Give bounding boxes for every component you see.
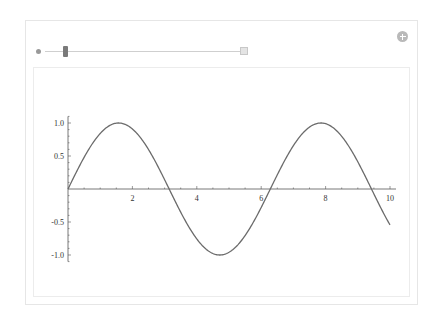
svg-text:6: 6 (259, 194, 263, 203)
svg-text:8: 8 (324, 194, 328, 203)
axes (68, 116, 396, 261)
svg-text:0.5: 0.5 (54, 152, 64, 161)
svg-text:4: 4 (195, 194, 199, 203)
ticks (68, 116, 390, 261)
svg-text:2: 2 (130, 194, 134, 203)
sine-plot: 246810-1.0-0.50.51.0 (0, 0, 439, 327)
svg-text:-1.0: -1.0 (51, 251, 64, 260)
svg-text:-0.5: -0.5 (51, 218, 64, 227)
tick-labels: 246810-1.0-0.50.51.0 (51, 119, 394, 260)
svg-text:10: 10 (386, 194, 394, 203)
svg-text:1.0: 1.0 (54, 119, 64, 128)
